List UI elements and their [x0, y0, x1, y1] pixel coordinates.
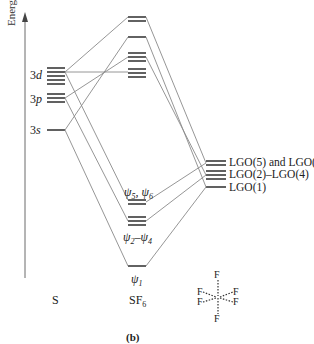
f-atom-left-lower: F — [197, 297, 203, 307]
figure-caption: (b) — [126, 332, 139, 343]
energy-axis-label: Energy — [5, 0, 17, 26]
s-correlation-lines — [65, 17, 128, 266]
label-psi1: ψ1 — [131, 273, 142, 288]
label-lgo2-lgo4: LGO(2)–LGO(4) — [229, 169, 309, 181]
label-3p: 3p — [30, 93, 42, 105]
label-3s: 3s — [30, 124, 41, 136]
s-3d-levels — [47, 68, 65, 84]
column-label-sf6: SF6 — [129, 294, 146, 309]
label-lgo5-lgo6: LGO(5) and LGO(6) — [229, 157, 314, 169]
sf6-molecule-icon — [203, 280, 233, 314]
label-lgo1: LGO(1) — [229, 182, 266, 194]
f-atom-top: F — [214, 270, 220, 280]
lgo-levels — [206, 161, 226, 187]
sf6-top-triple — [128, 53, 146, 61]
s-3p-levels — [47, 94, 65, 102]
lgo-correlation-lines — [146, 17, 206, 266]
f-atom-right-lower: F — [233, 297, 239, 307]
sf6-top-pair — [128, 17, 146, 21]
sf6-nonbonding-triple — [128, 69, 146, 77]
sf6-psi24-levels — [128, 217, 146, 225]
label-psi5-psi6: ψ5, ψ6 — [124, 186, 153, 201]
label-psi2-psi4: ψ2–ψ4 — [123, 231, 152, 246]
label-3d: 3d — [30, 69, 42, 81]
axis-arrow-icon — [22, 12, 28, 22]
f-atom-bottom: F — [214, 314, 220, 324]
column-label-s: S — [52, 294, 59, 306]
